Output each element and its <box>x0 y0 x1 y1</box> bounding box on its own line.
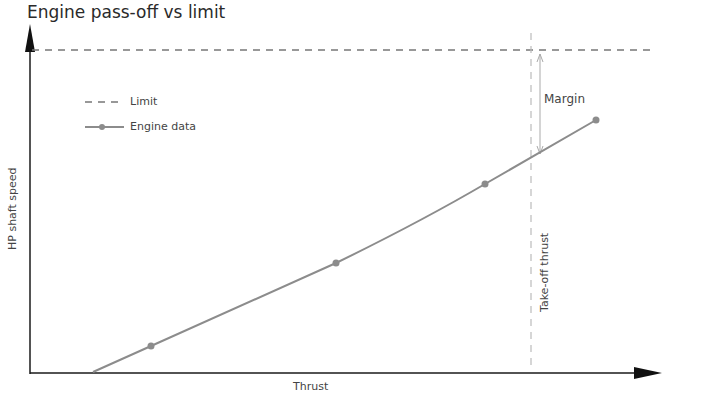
legend-limit-label: Limit <box>130 95 157 108</box>
x-axis-arrow-icon <box>634 367 662 379</box>
margin-label: Margin <box>544 92 585 106</box>
legend-engine-label: Engine data <box>130 120 196 133</box>
data-point <box>333 260 340 267</box>
takeoff-thrust-label: Take-off thrust <box>538 233 551 312</box>
chart-plot <box>0 0 716 416</box>
engine-data-line <box>93 120 596 372</box>
x-axis-label: Thrust <box>293 380 328 393</box>
data-point <box>593 117 600 124</box>
data-point <box>482 181 489 188</box>
y-axis-label: HP shaft speed <box>6 167 19 250</box>
legend-engine-marker-icon <box>99 124 105 130</box>
y-axis-arrow-icon <box>25 24 35 52</box>
data-point <box>148 343 155 350</box>
margin-arrow <box>537 54 543 154</box>
